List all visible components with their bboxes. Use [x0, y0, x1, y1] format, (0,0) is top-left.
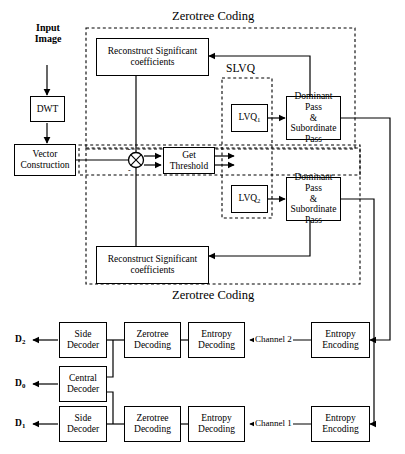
input-image-label-line1: Input: [36, 22, 60, 33]
reconstruct-bottom-line1: Reconstruct Significant: [108, 254, 197, 264]
side-decoder-2-block[interactable]: Side Decoder: [59, 322, 107, 358]
dwt-label: DWT: [37, 104, 59, 115]
reconstruct-significant-coefficients-bottom-block[interactable]: Reconstruct Significant coefficients: [96, 246, 209, 284]
lvq1-block[interactable]: LVQ1: [231, 104, 268, 132]
reconstruct-top-line2: coefficients: [130, 57, 174, 67]
vector-construction-block[interactable]: Vector Construction: [14, 144, 76, 176]
figure-title-bottom: Zerotree Coding: [172, 288, 254, 303]
channel-2-label: Channel 2: [254, 334, 293, 344]
channel-1-label: Channel 1: [254, 418, 293, 428]
slvq-group-label: SLVQ: [226, 62, 255, 74]
entropy-encoding-2-line1: Entropy: [325, 329, 356, 339]
central-decoder-line2: Decoder: [67, 384, 99, 394]
get-threshold-block[interactable]: Get Threshold: [163, 147, 215, 174]
dominant-pass-1-line3: Pass: [305, 134, 322, 144]
dominant-pass-1-line2: & Subordinate: [291, 113, 337, 134]
side-decoder-1-block[interactable]: Side Decoder: [59, 406, 107, 442]
reconstruct-bottom-line2: coefficients: [130, 265, 174, 275]
arrow-dominant1-to-reconstruct-top: [209, 56, 310, 96]
entropy-decoding-1-line1: Entropy: [201, 413, 232, 423]
entropy-encoding-2-block[interactable]: Entropy Encoding: [311, 322, 370, 358]
zerotree-decoding-2-line1: Zerotree: [136, 329, 168, 339]
entropy-encoding-1-line1: Entropy: [325, 413, 356, 423]
entropy-encoding-2-line2: Encoding: [322, 340, 358, 350]
get-threshold-line2: Threshold: [170, 161, 209, 171]
lvq2-label: LVQ2: [238, 193, 260, 204]
dominant-pass-2-line2: & Subordinate: [291, 194, 337, 215]
side-decoder-1-line1: Side: [75, 413, 92, 423]
central-decoder-line1: Central: [69, 373, 97, 383]
dominant-pass-2-line1: Dominant Pass: [295, 172, 333, 193]
zerotree-decoding-1-line2: Decoding: [134, 424, 171, 434]
sum-sign-top: -: [128, 145, 131, 154]
lvq1-label: LVQ1: [238, 112, 260, 123]
entropy-decoding-1-block[interactable]: Entropy Decoding: [188, 406, 245, 442]
side-decoder-2-line1: Side: [75, 329, 92, 339]
output-d2-label: D2: [15, 334, 25, 345]
get-threshold-line1: Get: [182, 150, 196, 160]
dwt-block[interactable]: DWT: [30, 96, 65, 122]
arrow-dominant1-to-entropy-encoding-2: [341, 118, 390, 340]
vector-construction-line1: Vector: [33, 149, 58, 159]
figure-title-top: Zerotree Coding: [172, 9, 254, 24]
dominant-subordinate-pass-lower-block[interactable]: Dominant Pass & Subordinate Pass: [286, 177, 341, 221]
zerotree-decoding-2-block[interactable]: Zerotree Decoding: [124, 322, 181, 358]
entropy-decoding-2-block[interactable]: Entropy Decoding: [188, 322, 245, 358]
zerotree-decoding-2-line2: Decoding: [134, 340, 171, 350]
lvq2-block[interactable]: LVQ2: [231, 185, 268, 213]
entropy-encoding-1-line2: Encoding: [322, 424, 358, 434]
side-decoder-2-line2: Decoder: [67, 340, 99, 350]
entropy-decoding-1-line2: Decoding: [198, 424, 235, 434]
dominant-pass-2-line3: Pass: [305, 215, 322, 225]
entropy-decoding-2-line1: Entropy: [201, 329, 232, 339]
input-image-label-line2: Image: [35, 33, 62, 44]
output-d0-label: D0: [15, 378, 25, 389]
reconstruct-significant-coefficients-top-block[interactable]: Reconstruct Significant coefficients: [96, 38, 209, 76]
arrow-dominant2-to-entropy-encoding-1: [341, 199, 374, 424]
sum-sign-bottom: -: [128, 166, 131, 175]
central-decoder-block[interactable]: Central Decoder: [59, 366, 107, 402]
entropy-decoding-2-line2: Decoding: [198, 340, 235, 350]
dominant-subordinate-pass-upper-block[interactable]: Dominant Pass & Subordinate Pass: [286, 96, 341, 140]
block-diagram-figure: Zerotree Coding Zerotree Coding SLVQ Inp…: [0, 0, 405, 454]
zerotree-decoding-1-block[interactable]: Zerotree Decoding: [124, 406, 181, 442]
side-decoder-1-line2: Decoder: [67, 424, 99, 434]
input-image-label: Input Image: [27, 22, 69, 44]
dominant-pass-1-line1: Dominant Pass: [295, 91, 333, 112]
arrow-dominant2-to-reconstruct-bottom: [209, 221, 310, 256]
entropy-encoding-1-block[interactable]: Entropy Encoding: [311, 406, 370, 442]
output-d1-label: D1: [15, 418, 25, 429]
reconstruct-top-line1: Reconstruct Significant: [108, 46, 197, 56]
zerotree-decoding-1-line1: Zerotree: [136, 413, 168, 423]
vector-construction-line2: Construction: [20, 160, 69, 170]
